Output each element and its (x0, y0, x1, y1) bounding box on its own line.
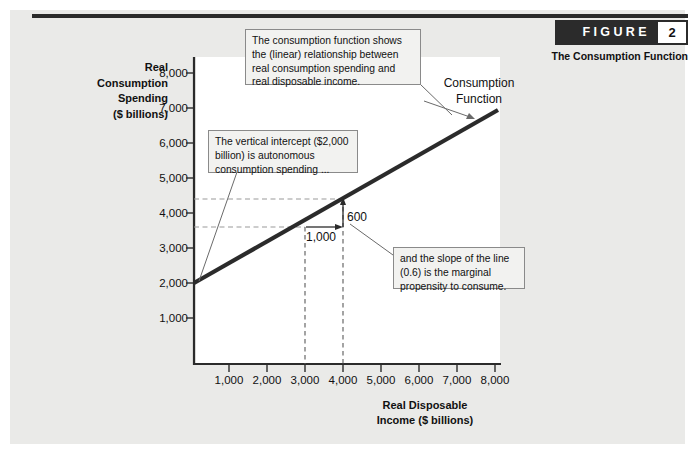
callout-slope-mpc: and the slope of the line (0.6) is the m… (393, 247, 525, 289)
callout-consumption-function: The consumption function shows the (line… (245, 29, 421, 85)
curve-label-line-2: Function (425, 92, 533, 108)
callout-vertical-intercept: The vertical intercept ($2,000 billion) … (208, 130, 358, 173)
curve-label: Consumption Function (425, 76, 533, 107)
y-tick-marks (186, 73, 194, 318)
curve-label-line-1: Consumption (425, 76, 533, 92)
guide-verticals (305, 199, 343, 364)
rise-label: 600 (347, 211, 367, 223)
figure-root: FIGURE 2 The Consumption Function Real C… (0, 0, 695, 454)
x-tick-marks (229, 364, 495, 372)
leader-line-slope-callout (350, 224, 393, 255)
run-label: 1,000 (306, 231, 336, 243)
